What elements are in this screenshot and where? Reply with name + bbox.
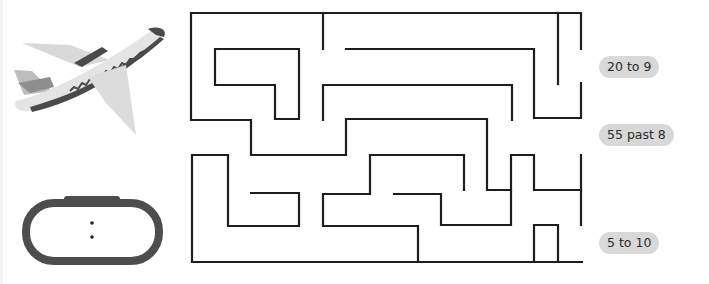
time-label-5-to-10: 5 to 10 bbox=[599, 232, 659, 254]
time-label-20-to-9: 20 to 9 bbox=[599, 56, 659, 78]
time-label-55-past-8: 55 past 8 bbox=[599, 124, 674, 146]
